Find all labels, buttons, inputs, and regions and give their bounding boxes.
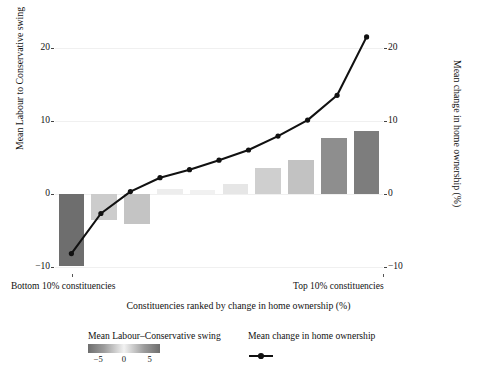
y-tick-mark-right — [384, 267, 387, 268]
y-tick-label-right: 20 — [388, 43, 398, 53]
x-axis-label-top-decile: Top 10% constituencies — [293, 281, 384, 291]
y-tick-label-left: 0 — [45, 189, 50, 199]
y-tick-label-right: 0 — [388, 189, 393, 199]
line-point — [364, 34, 369, 39]
legend-colorbar — [88, 344, 160, 353]
y-axis-right-title: Mean change in home ownership (%) — [452, 60, 463, 207]
y-tick-mark-right — [384, 48, 387, 49]
line-point — [335, 93, 340, 98]
y-axis-left-title: Mean Labour to Conservative swing — [14, 7, 25, 150]
y-tick-label-left: 20 — [41, 43, 51, 53]
chart-figure: Mean Labour to Conservative swing Mean c… — [0, 0, 477, 377]
y-tick-label-right: −10 — [388, 262, 403, 272]
y-tick-mark-right — [384, 121, 387, 122]
line-point — [246, 147, 251, 152]
line-point — [275, 134, 280, 139]
line-point — [128, 189, 133, 194]
legend-tick-label: 0 — [122, 354, 126, 364]
line-point — [216, 158, 221, 163]
line-series — [55, 26, 383, 274]
x-axis-title: Constituencies ranked by change in home … — [0, 300, 477, 311]
x-axis-label-bottom-decile: Bottom 10% constituencies — [11, 281, 116, 291]
line-point — [187, 167, 192, 172]
line-path — [71, 37, 366, 254]
legend-swing-title: Mean Labour–Conservative swing — [88, 330, 221, 341]
line-point — [69, 251, 74, 256]
legend-ownership: Mean change in home ownership — [248, 330, 375, 365]
line-point — [157, 175, 162, 180]
y-tick-label-left: 10 — [41, 116, 51, 126]
y-tick-label-left: −10 — [35, 262, 50, 272]
y-tick-mark-right — [384, 194, 387, 195]
legend-tick-label: −5 — [94, 354, 103, 364]
x-tick-right — [383, 274, 384, 277]
y-tick-mark-left — [51, 194, 54, 195]
y-tick-mark-left — [51, 48, 54, 49]
legend-swing: Mean Labour–Conservative swing −505 — [88, 330, 221, 366]
legend-ownership-title: Mean change in home ownership — [248, 330, 375, 341]
x-tick-left — [72, 274, 73, 277]
line-point — [98, 211, 103, 216]
y-tick-label-right: 10 — [388, 116, 398, 126]
y-tick-mark-left — [51, 121, 54, 122]
legend-tick-label: 5 — [148, 354, 152, 364]
legend-colorbar-ticks: −505 — [88, 354, 160, 366]
legend-line-marker — [248, 347, 375, 365]
y-tick-mark-left — [51, 267, 54, 268]
plot-area: −1001020 −1001020 Bottom 10% constituenc… — [55, 26, 383, 274]
line-point — [305, 118, 310, 123]
